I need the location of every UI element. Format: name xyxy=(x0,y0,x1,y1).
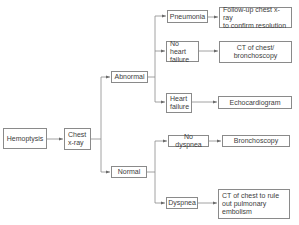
node-label: No dyspnea xyxy=(172,133,205,149)
node-ct-pulmonary-embolism: CT of chest to rule out pulmonary emboli… xyxy=(218,189,290,219)
node-label: Chest x-ray xyxy=(68,131,86,147)
node-echocardiogram: Echocardiogram xyxy=(218,96,292,109)
node-label: Abnormal xyxy=(115,73,145,81)
node-label: Hemoptysis xyxy=(7,135,44,143)
node-label: Pneumonia xyxy=(170,13,205,21)
node-label: CT of chest to rule out pulmonary emboli… xyxy=(222,192,279,216)
node-label: Echocardiogram xyxy=(230,99,281,107)
node-followup-xray: Follow-up chest x-ray to confirm resolut… xyxy=(219,7,292,28)
node-label: Follow-up chest x-ray to confirm resolut… xyxy=(223,6,288,30)
node-label: Bronchoscopy xyxy=(234,137,278,145)
node-normal: Normal xyxy=(111,166,147,178)
node-dyspnea: Dyspnea xyxy=(166,197,198,209)
node-bronchoscopy: Bronchoscopy xyxy=(222,135,290,147)
node-abnormal: Abnormal xyxy=(111,71,148,83)
node-heart-failure: Heart failure xyxy=(166,93,192,113)
node-no-dyspnea: No dyspnea xyxy=(168,135,209,147)
node-chest-xray: Chest x-ray xyxy=(64,128,91,150)
node-label: No heart failure xyxy=(170,40,195,64)
node-ct-bronchoscopy: CT of chest/ bronchoscopy xyxy=(219,41,292,63)
node-hemoptysis: Hemoptysis xyxy=(3,128,47,149)
node-label: Normal xyxy=(118,168,141,176)
node-label: Heart failure xyxy=(170,95,189,111)
node-no-heart-failure: No heart failure xyxy=(166,41,199,62)
node-label: Dyspnea xyxy=(168,199,196,207)
node-pneumonia: Pneumonia xyxy=(167,10,208,23)
node-label: CT of chest/ bronchoscopy xyxy=(234,44,278,60)
